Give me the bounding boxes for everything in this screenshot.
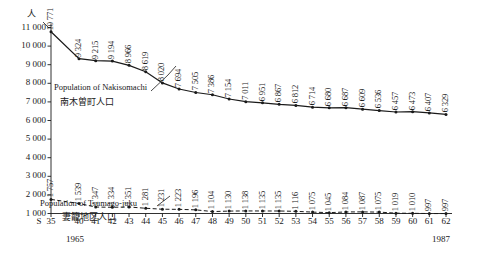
value-label-nakisomachi: 6 680 bbox=[324, 72, 333, 106]
value-label-tsumago: 1 539 bbox=[74, 167, 83, 201]
value-label-nakisomachi: 6 951 bbox=[258, 67, 267, 101]
value-label-nakisomachi: 9 215 bbox=[91, 25, 100, 59]
y-axis-tick-label: 11 000 bbox=[2, 22, 46, 32]
data-point bbox=[378, 211, 381, 214]
value-label-nakisomachi: 7 011 bbox=[241, 66, 250, 100]
data-point bbox=[111, 60, 114, 63]
value-label-tsumago: 1 084 bbox=[341, 176, 350, 210]
data-point bbox=[161, 81, 164, 84]
x-axis-tick-label: 58 bbox=[370, 216, 388, 226]
value-label-nakisomachi: 6 812 bbox=[291, 69, 300, 103]
x-axis-tick-label: 54 bbox=[304, 216, 322, 226]
y-axis-tick-label: 9 000 bbox=[2, 59, 46, 69]
value-label-nakisomachi: 7 505 bbox=[191, 57, 200, 91]
x-axis-tick-label: 60 bbox=[404, 216, 422, 226]
value-label-nakisomachi: 8 619 bbox=[141, 36, 150, 70]
legend-label-nakisomachi-en: Population of Nakisomachi bbox=[54, 82, 147, 92]
data-point bbox=[194, 91, 197, 94]
value-label-tsumago: 1 135 bbox=[258, 175, 267, 209]
value-label-tsumago: 1 223 bbox=[174, 173, 183, 207]
value-label-tsumago: 1 075 bbox=[374, 176, 383, 210]
data-point bbox=[328, 211, 331, 214]
x-axis-tick-label: 47 bbox=[187, 216, 205, 226]
value-label-tsumago: 1 075 bbox=[308, 176, 317, 210]
data-point bbox=[161, 208, 164, 211]
data-point bbox=[178, 208, 181, 211]
x-axis-tick-label: 50 bbox=[237, 216, 255, 226]
value-label-tsumago: 1 045 bbox=[324, 177, 333, 211]
data-point bbox=[228, 98, 231, 101]
x-axis-tick-label: 56 bbox=[337, 216, 355, 226]
y-axis-tick-label: 5 000 bbox=[2, 133, 46, 143]
value-label-tsumago: 1 281 bbox=[141, 172, 150, 206]
x-axis-tick-label: 61 bbox=[420, 216, 438, 226]
data-point bbox=[294, 104, 297, 107]
data-point bbox=[344, 106, 347, 109]
y-axis-tick-label: 4 000 bbox=[2, 152, 46, 162]
value-label-tsumago: 1 135 bbox=[274, 175, 283, 209]
value-label-tsumago: 1 231 bbox=[157, 173, 166, 207]
data-point bbox=[394, 110, 397, 113]
legend-label-tsumago-en: Population of Tsumago-juku bbox=[40, 198, 137, 208]
data-point bbox=[394, 212, 397, 215]
value-label-tsumago: 1 138 bbox=[241, 175, 250, 209]
value-label-nakisomachi: 6 329 bbox=[441, 78, 450, 112]
x-axis-tick-label: 55 bbox=[320, 216, 338, 226]
value-label-tsumago: 1 087 bbox=[358, 176, 367, 210]
data-point bbox=[445, 113, 448, 116]
data-point bbox=[428, 212, 431, 215]
legend-label-nakisomachi-jp: 南木曽町人口 bbox=[60, 95, 114, 108]
y-axis-tick-label: 10 000 bbox=[2, 40, 46, 50]
data-point bbox=[261, 101, 264, 104]
y-axis-tick-label: 6 000 bbox=[2, 115, 46, 125]
y-axis-unit-label: 人 bbox=[27, 7, 36, 20]
y-axis-tick-label: 7 000 bbox=[2, 96, 46, 106]
data-point bbox=[244, 209, 247, 212]
data-point bbox=[361, 108, 364, 111]
value-label-nakisomachi: 8 966 bbox=[124, 29, 133, 63]
x-axis-tick-label: 43 bbox=[120, 216, 138, 226]
data-point bbox=[411, 110, 414, 113]
data-point bbox=[294, 210, 297, 213]
value-label-tsumago: 1 130 bbox=[224, 175, 233, 209]
data-point bbox=[194, 208, 197, 211]
data-point bbox=[128, 64, 131, 67]
x-axis-tick-label: 49 bbox=[220, 216, 238, 226]
data-point bbox=[361, 210, 364, 213]
data-point bbox=[94, 59, 97, 62]
value-label-tsumago: 1 116 bbox=[291, 175, 300, 209]
x-axis-tick-label: 48 bbox=[203, 216, 221, 226]
value-label-nakisomachi: 6 714 bbox=[308, 71, 317, 105]
population-line-chart: 11 00010 0009 0008 0007 0006 0005 0004 0… bbox=[0, 0, 482, 254]
data-point bbox=[278, 103, 281, 106]
x-axis-tick-label: 62 bbox=[437, 216, 455, 226]
value-label-tsumago: 997 bbox=[441, 178, 450, 212]
data-point bbox=[144, 70, 147, 73]
value-label-nakisomachi: 6 457 bbox=[391, 76, 400, 110]
x-axis-tick-label: 44 bbox=[137, 216, 155, 226]
value-label-nakisomachi: 6 867 bbox=[274, 68, 283, 102]
data-point bbox=[311, 106, 314, 109]
value-label-nakisomachi: 7 386 bbox=[207, 59, 216, 93]
value-label-tsumago: 997 bbox=[424, 178, 433, 212]
data-point bbox=[211, 93, 214, 96]
value-label-nakisomachi: 7 154 bbox=[224, 63, 233, 97]
data-point bbox=[261, 209, 264, 212]
data-point bbox=[211, 210, 214, 213]
value-label-tsumago: 1 010 bbox=[408, 177, 417, 211]
value-label-tsumago: 1 196 bbox=[191, 174, 200, 208]
value-label-nakisomachi: 8 020 bbox=[157, 47, 166, 81]
data-point bbox=[228, 210, 231, 213]
data-point bbox=[78, 57, 81, 60]
data-point bbox=[328, 106, 331, 109]
x-axis-start-year: 1965 bbox=[66, 234, 84, 244]
value-label-nakisomachi: 10 771 bbox=[46, 0, 55, 30]
data-point bbox=[311, 211, 314, 214]
value-label-nakisomachi: 9 324 bbox=[74, 23, 83, 57]
x-axis-tick-label: 57 bbox=[354, 216, 372, 226]
data-point bbox=[50, 30, 53, 33]
data-point bbox=[278, 209, 281, 212]
y-axis-tick-label: 8 000 bbox=[2, 77, 46, 87]
data-point bbox=[445, 212, 448, 215]
data-point bbox=[411, 212, 414, 215]
